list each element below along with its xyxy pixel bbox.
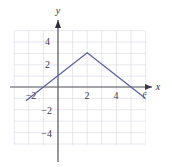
- y-tick-label: −4: [41, 128, 52, 139]
- graph-figure: x y −2 2 4 6 4 2 −2 −4: [0, 0, 172, 167]
- y-tick-label: 4: [45, 36, 50, 47]
- coordinate-plane-chart: x y −2 2 4 6 4 2 −2 −4: [0, 0, 172, 167]
- y-axis-label: y: [55, 5, 61, 16]
- x-axis-label: x: [155, 81, 161, 92]
- curve-clip-right: [146, 95, 172, 167]
- x-tick-label: 2: [85, 90, 90, 101]
- y-tick-label: −2: [41, 105, 52, 116]
- x-tick-label: 4: [114, 90, 119, 101]
- y-tick-label: 2: [45, 59, 50, 70]
